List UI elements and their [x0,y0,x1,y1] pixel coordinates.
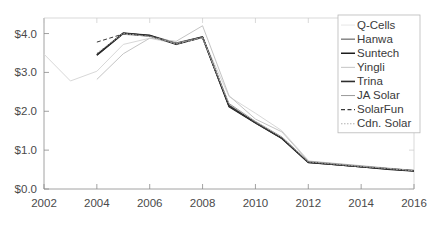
legend-label-trina: Trina [357,75,383,87]
y-tick-label: $1.0 [15,144,37,156]
chart-legend: Q-CellsHanwaSuntechYingliTrinaJA SolarSo… [338,15,420,133]
x-tick-label: 2008 [190,197,216,209]
y-tick-label: $0.0 [15,183,37,195]
x-tick-label: 2004 [84,197,110,209]
x-tick-label: 2016 [401,197,427,209]
plot-area: 20022004200620082010201220142016 $0.0$1.… [15,15,427,209]
y-tick-label: $2.0 [15,105,37,117]
x-tick-label: 2014 [348,197,374,209]
line-chart: 20022004200620082010201220142016 $0.0$1.… [0,0,430,233]
y-axis-tick-labels: $0.0$1.0$2.0$3.0$4.0 [15,28,37,195]
chart-container: 20022004200620082010201220142016 $0.0$1.… [0,0,430,233]
legend-label-q-cells: Q-Cells [357,19,396,31]
y-tick-label: $4.0 [15,28,37,40]
legend-label-cdn-solar: Cdn. Solar [357,117,412,129]
legend-label-solarfun: SolarFun [357,103,404,115]
legend-label-suntech: Suntech [357,47,399,59]
series-line-q-cells [44,37,308,160]
x-tick-label: 2010 [243,197,269,209]
y-tick-label: $3.0 [15,66,37,78]
legend-label-yingli: Yingli [357,61,385,73]
x-tick-label: 2006 [137,197,163,209]
x-axis-tick-labels: 20022004200620082010201220142016 [31,197,427,209]
legend-label-ja-solar: JA Solar [357,89,400,101]
x-tick-label: 2002 [31,197,57,209]
legend-label-hanwa: Hanwa [357,33,393,45]
x-tick-label: 2012 [295,197,321,209]
